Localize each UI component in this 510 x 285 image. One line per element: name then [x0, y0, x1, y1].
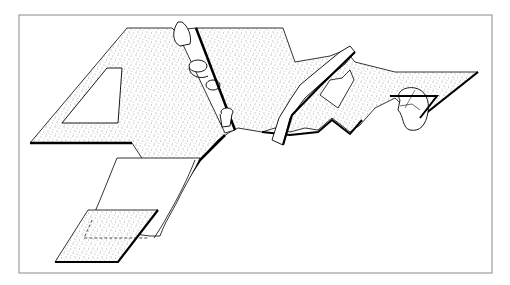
illustration — [0, 0, 510, 285]
